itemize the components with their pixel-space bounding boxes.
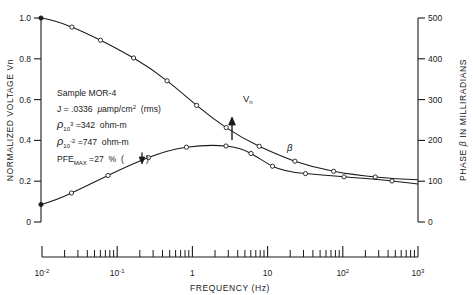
chart-svg: 1.0 0.8 0.6 0.4 0.2 0 NORMALIZED VOLTAGE… xyxy=(0,0,473,295)
right-tick-label-5: 500 xyxy=(428,13,442,23)
x-tick-label-1: 10-1 xyxy=(110,268,125,279)
left-tick-label-1: 0.2 xyxy=(19,176,31,186)
left-tick-label-2: 0.4 xyxy=(19,135,31,145)
vn-point-10 xyxy=(373,175,377,179)
annotation-block: Sample MOR-4 J = .0336 μamp/cm2 (rms) ρ1… xyxy=(56,88,161,166)
chart-figure: 1.0 0.8 0.6 0.4 0.2 0 NORMALIZED VOLTAGE… xyxy=(0,0,473,295)
vn-point-2 xyxy=(98,38,102,42)
beta-point-8 xyxy=(303,172,307,176)
annotation-rho-1: ρ103 =342 ohm-m xyxy=(56,118,127,132)
vn-point-7 xyxy=(257,144,261,148)
x-axis-title: FREQUENCY (Hz) xyxy=(190,283,270,293)
vn-point-4 xyxy=(165,79,169,83)
annotation-pfe-close: ) xyxy=(146,154,149,164)
beta-point-7 xyxy=(270,164,274,168)
right-tick-label-2: 200 xyxy=(428,135,442,145)
vn-point-3 xyxy=(132,56,136,60)
annotation-sample: Sample MOR-4 xyxy=(57,88,116,98)
right-tick-label-3: 300 xyxy=(428,95,442,105)
beta-point-9 xyxy=(342,175,346,179)
left-tick-label-5: 1.0 xyxy=(19,13,31,23)
x-tick-label-4: 102 xyxy=(336,268,349,279)
beta-point-0 xyxy=(39,202,43,206)
vn-pfe-arrow-icon xyxy=(229,117,236,140)
vn-point-8 xyxy=(293,159,297,163)
left-tick-label-4: 0.8 xyxy=(19,54,31,64)
right-tick-label-0: 0 xyxy=(428,217,433,227)
right-y-axis-title: PHASE β IN MILLIRADIANS xyxy=(458,59,468,181)
right-y-axis xyxy=(418,18,425,222)
right-y-tick-labels: 500 400 300 200 100 0 xyxy=(428,13,442,227)
vn-point-5 xyxy=(195,103,199,107)
x-axis xyxy=(42,246,418,257)
beta-curve-label: β xyxy=(286,142,293,153)
left-tick-label-0: 0 xyxy=(26,217,31,227)
left-tick-label-3: 0.6 xyxy=(19,95,31,105)
annotation-pfe-max: PFEMAX =27 % ( xyxy=(57,154,124,166)
beta-point-6 xyxy=(249,151,253,155)
vn-point-9 xyxy=(332,169,336,173)
beta-point-5 xyxy=(224,144,228,148)
vn-point-0 xyxy=(39,16,43,20)
annotation-current-density: J = .0336 μamp/cm2 (rms) xyxy=(57,104,161,115)
x-tick-label-2: 1 xyxy=(190,268,195,278)
beta-point-1 xyxy=(69,191,73,195)
annotation-rho-2: ρ10-2 =747 ohm-m xyxy=(56,135,129,149)
left-y-axis xyxy=(34,18,41,222)
vn-curve-label: Vn xyxy=(243,93,253,105)
beta-point-4 xyxy=(184,145,188,149)
vn-point-6 xyxy=(224,126,228,130)
left-y-tick-labels: 1.0 0.8 0.6 0.4 0.2 0 xyxy=(19,13,31,227)
x-tick-label-0: 10-2 xyxy=(35,268,50,279)
beta-point-10 xyxy=(390,179,394,183)
right-tick-label-4: 400 xyxy=(428,54,442,64)
x-tick-label-5: 103 xyxy=(412,268,425,279)
vn-point-1 xyxy=(70,25,74,29)
left-y-axis-title: NORMALIZED VOLTAGE Vn xyxy=(5,59,15,181)
beta-point-2 xyxy=(106,173,110,177)
pfe-down-arrow-icon xyxy=(139,153,145,165)
x-tick-label-3: 10 xyxy=(263,268,273,278)
right-tick-label-1: 100 xyxy=(428,176,442,186)
x-tick-labels: 10-2 10-1 1 10 102 103 xyxy=(35,268,425,279)
